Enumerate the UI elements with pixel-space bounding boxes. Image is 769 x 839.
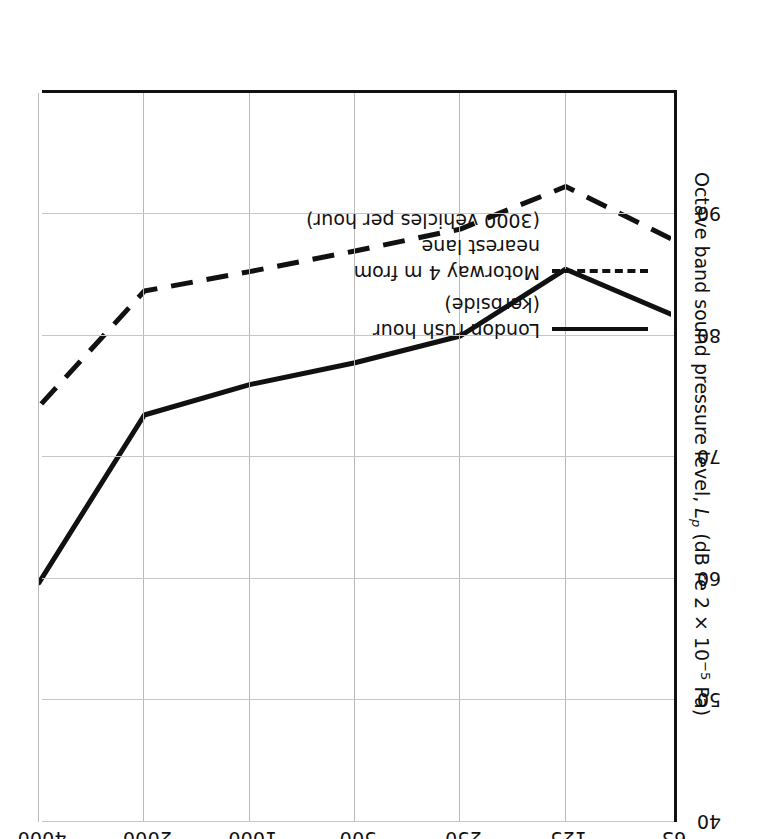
- x-tick-label-63: 63: [662, 828, 687, 839]
- y-axis-symbol: L: [691, 508, 713, 519]
- y-axis-units-exponent: −5: [698, 661, 713, 680]
- legend-swatch-dashed-line: [552, 269, 648, 273]
- x-tick-label-500: 500: [340, 828, 377, 839]
- series-layer: [39, 93, 671, 822]
- gridline-horizontal: [42, 457, 674, 458]
- gridline-vertical: [143, 93, 144, 822]
- legend-label-london-line2: (kerbside): [444, 294, 540, 316]
- series-london-rush-hour: [39, 269, 671, 582]
- gridline-horizontal: [42, 335, 674, 336]
- legend-swatch-solid-line: [552, 327, 648, 331]
- plot-area: [42, 90, 677, 822]
- gridline-horizontal: [42, 821, 674, 822]
- octave-band-spectrum-chart: Frequency (Hz) 63 125 250 500 1000 2000 …: [0, 0, 769, 839]
- gridline-horizontal: [42, 578, 674, 579]
- y-axis-title-text: Octave band sound pressure level,: [691, 172, 713, 508]
- gridline-vertical: [459, 93, 460, 822]
- x-tick-label-250: 250: [445, 828, 482, 839]
- y-axis-title: Octave band sound pressure level, Lp (dB…: [689, 64, 713, 824]
- x-tick-label-4000: 4000: [17, 828, 66, 839]
- rotated-figure-wrapper: Frequency (Hz) 63 125 250 500 1000 2000 …: [0, 0, 769, 839]
- legend-label-london-line1: London rush hour: [373, 320, 540, 342]
- x-tick-label-1000: 1000: [228, 828, 277, 839]
- gridline-vertical: [38, 93, 39, 822]
- legend-label-motorway-line1: Motorway 4 m from: [354, 262, 540, 284]
- x-tick-label-2000: 2000: [123, 828, 172, 839]
- legend-label-motorway-line2: nearest lane: [422, 236, 541, 258]
- y-axis-symbol-subscript: p: [689, 519, 704, 527]
- y-axis-units-suffix: Pa): [691, 680, 713, 716]
- y-axis-units-prefix: (dB re 2 × 10: [691, 527, 713, 661]
- gridline-vertical: [354, 93, 355, 822]
- legend-label-motorway-line3: (3000 vehicles per hour): [306, 210, 540, 232]
- gridline-vertical: [249, 93, 250, 822]
- x-tick-label-125: 125: [550, 828, 587, 839]
- gridline-horizontal: [42, 700, 674, 701]
- gridline-vertical: [565, 93, 566, 822]
